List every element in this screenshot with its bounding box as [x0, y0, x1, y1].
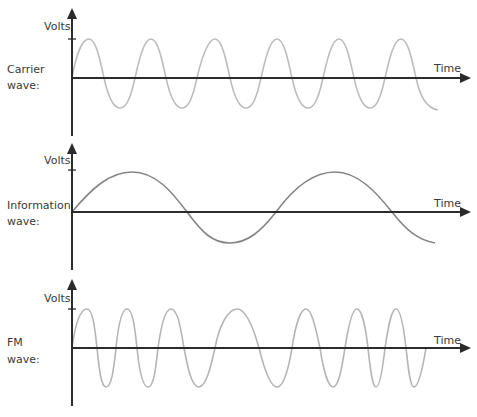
carrier-x-axis-arrow-icon [460, 73, 471, 83]
carrier-wave [72, 39, 438, 110]
carrier-panel: Carrier wave: Volts Time [7, 8, 471, 136]
fm-y-axis-arrow-icon [67, 279, 77, 290]
information-label-line2: wave: [7, 215, 40, 228]
information-y-axis-arrow-icon [67, 143, 77, 154]
carrier-label-line2: wave: [7, 79, 40, 92]
information-x-axis-arrow-icon [460, 207, 471, 217]
fm-panel: FM wave: Volts Time [7, 279, 471, 406]
carrier-x-axis-label: Time [433, 62, 461, 75]
fm-label-line2: wave: [7, 353, 40, 366]
carrier-y-axis-label: Volts [44, 20, 71, 33]
carrier-y-axis-arrow-icon [67, 8, 77, 19]
information-y-axis-label: Volts [44, 154, 71, 167]
fm-diagram: Carrier wave: Volts Time Information wav… [0, 0, 477, 417]
information-x-axis-label: Time [433, 197, 461, 210]
carrier-label-line1: Carrier [7, 63, 45, 76]
fm-x-axis-label: Time [433, 334, 461, 347]
information-panel: Information wave: Volts Time [7, 143, 471, 270]
information-wave [72, 172, 435, 243]
fm-x-axis-arrow-icon [460, 343, 471, 353]
fm-y-axis-label: Volts [44, 292, 71, 305]
information-label-line1: Information [7, 199, 71, 212]
fm-label-line1: FM [7, 336, 23, 349]
